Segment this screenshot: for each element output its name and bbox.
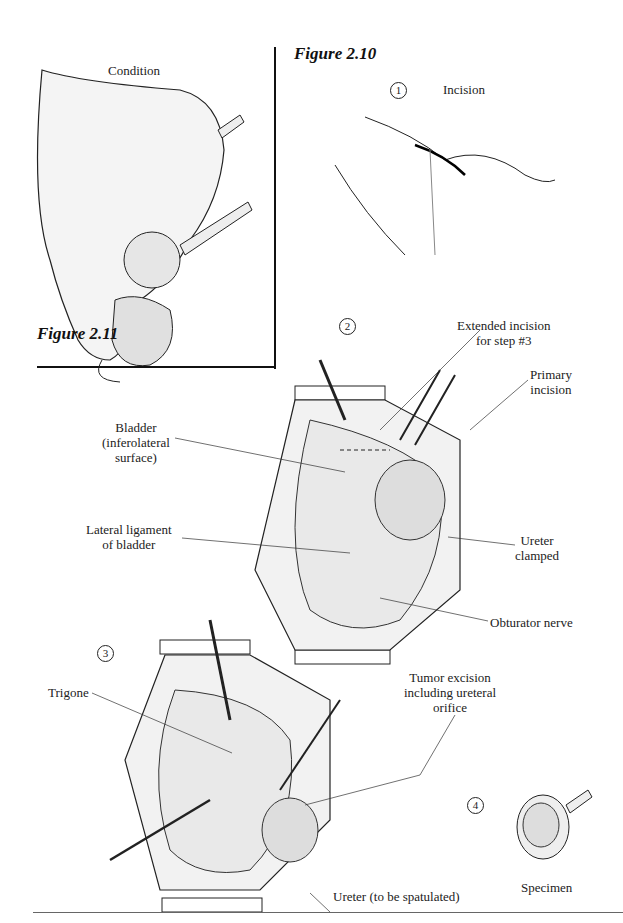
- specimen-illustration: [508, 785, 598, 865]
- step-4-number: 4: [467, 797, 484, 814]
- specimen-label: Specimen: [521, 880, 572, 895]
- page-footer-rule: [33, 912, 623, 913]
